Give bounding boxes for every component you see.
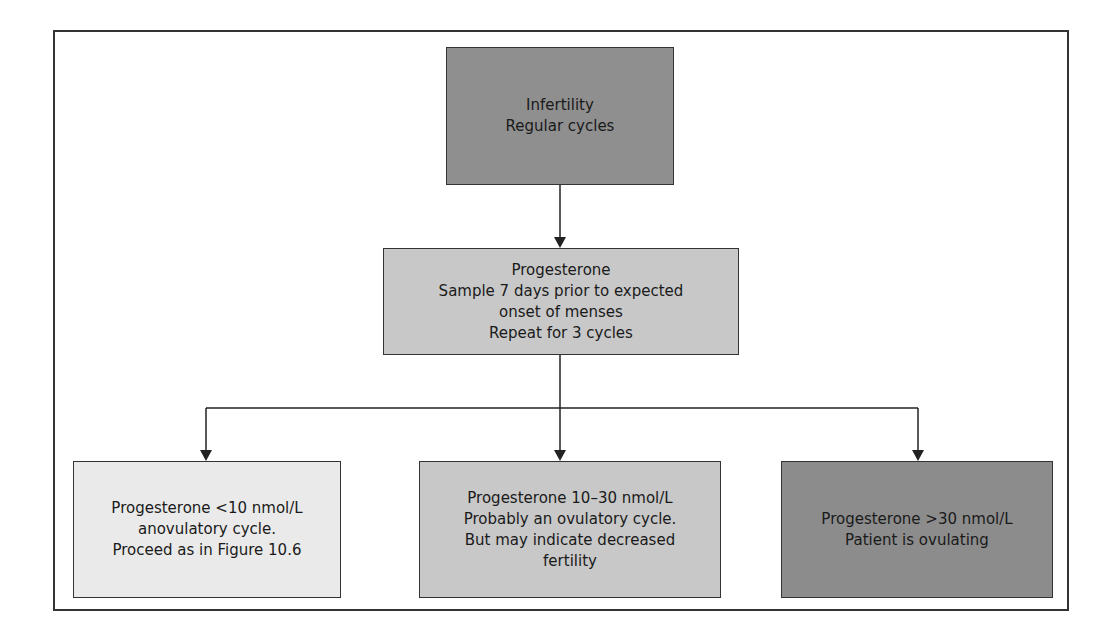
node-progesterone-mid: Progesterone 10–30 nmol/L Probably an ov… xyxy=(419,461,721,598)
node-label: Infertility Regular cycles xyxy=(506,95,615,137)
arrowhead-icon xyxy=(200,450,212,461)
node-progesterone-sampling: Progesterone Sample 7 days prior to expe… xyxy=(383,248,739,355)
node-progesterone-low: Progesterone <10 nmol/L anovulatory cycl… xyxy=(73,461,341,598)
node-infertility-regular-cycles: Infertility Regular cycles xyxy=(446,47,674,185)
arrowhead-icon xyxy=(554,237,566,248)
node-label: Progesterone <10 nmol/L anovulatory cycl… xyxy=(111,498,302,561)
arrowhead-icon xyxy=(912,450,924,461)
node-progesterone-high: Progesterone >30 nmol/L Patient is ovula… xyxy=(781,461,1053,598)
node-label: Progesterone 10–30 nmol/L Probably an ov… xyxy=(464,488,677,572)
node-label: Progesterone Sample 7 days prior to expe… xyxy=(439,260,684,344)
node-label: Progesterone >30 nmol/L Patient is ovula… xyxy=(821,509,1012,551)
arrowhead-icon xyxy=(554,450,566,461)
